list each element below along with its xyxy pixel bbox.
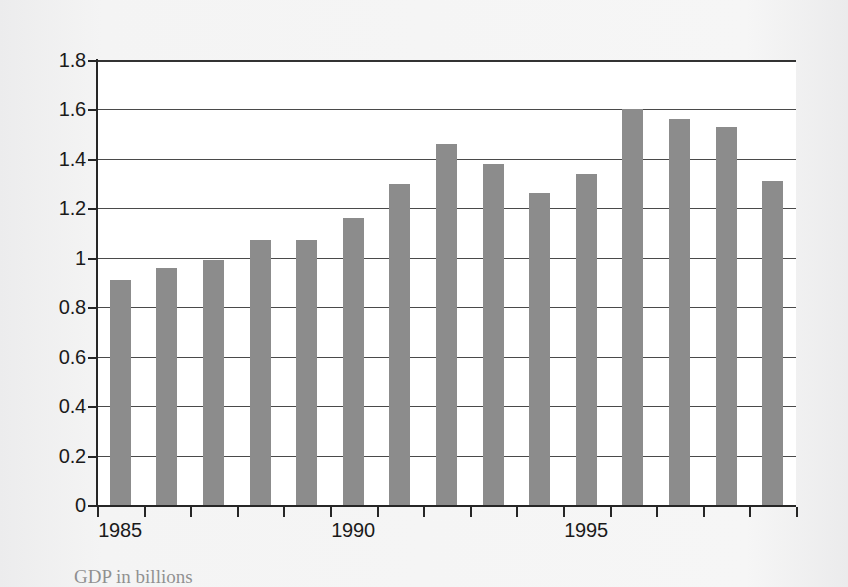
- y-tick-mark-1.6: [88, 109, 97, 111]
- x-tick-mark-12: [656, 507, 658, 517]
- x-tick-mark-11: [610, 507, 612, 517]
- bar-1999: [762, 181, 783, 505]
- y-tick-mark-1: [88, 258, 97, 260]
- bar-1997: [669, 119, 690, 505]
- y-tick-label-0.2: 0.2: [16, 446, 86, 466]
- bar-1994: [529, 193, 550, 505]
- x-tick-label-1995: 1995: [564, 520, 608, 540]
- bar-1988: [250, 240, 271, 505]
- x-tick-mark-5: [330, 507, 332, 517]
- bar-series: [97, 60, 796, 505]
- y-tick-label-1.4: 1.4: [16, 149, 86, 169]
- y-axis-line: [96, 59, 98, 507]
- x-tick-label-1985: 1985: [98, 520, 142, 540]
- x-tick-mark-7: [423, 507, 425, 517]
- y-tick-mark-0.8: [88, 307, 97, 309]
- x-axis-line: [96, 505, 796, 507]
- y-tick-mark-0.4: [88, 406, 97, 408]
- y-tick-label-0: 0: [16, 495, 86, 515]
- bar-1985: [110, 280, 131, 505]
- x-tick-mark-6: [377, 507, 379, 517]
- bar-1989: [296, 240, 317, 505]
- x-tick-mark-13: [703, 507, 705, 517]
- scanned-page: 00.20.40.60.811.21.41.61.8 198519901995 …: [0, 0, 848, 587]
- y-tick-label-1.8: 1.8: [16, 50, 86, 70]
- y-tick-label-1: 1: [16, 248, 86, 268]
- bar-1993: [483, 164, 504, 505]
- y-tick-label-1.6: 1.6: [16, 99, 86, 119]
- figure-caption: GDP in billions: [74, 566, 834, 587]
- y-tick-mark-1.8: [88, 60, 97, 62]
- y-tick-label-0.8: 0.8: [16, 297, 86, 317]
- bar-1998: [716, 127, 737, 505]
- bar-1987: [203, 260, 224, 505]
- x-tick-mark-9: [516, 507, 518, 517]
- y-tick-label-0.6: 0.6: [16, 347, 86, 367]
- x-tick-mark-10: [563, 507, 565, 517]
- bar-1996: [622, 109, 643, 505]
- x-tick-mark-4: [283, 507, 285, 517]
- bar-1995: [576, 174, 597, 505]
- y-tick-mark-0: [88, 505, 97, 507]
- x-tick-mark-2: [190, 507, 192, 517]
- bar-1991: [389, 184, 410, 505]
- bar-1992: [436, 144, 457, 505]
- y-tick-mark-1.4: [88, 159, 97, 161]
- y-tick-label-1.2: 1.2: [16, 198, 86, 218]
- x-tick-label-1990: 1990: [331, 520, 375, 540]
- y-axis-ticks: 00.20.40.60.811.21.41.61.8: [0, 0, 86, 587]
- x-tick-mark-1: [144, 507, 146, 517]
- plot-area: [97, 60, 796, 505]
- y-tick-label-0.4: 0.4: [16, 396, 86, 416]
- x-tick-mark-0: [97, 507, 99, 517]
- x-tick-mark-3: [237, 507, 239, 517]
- x-tick-mark-8: [470, 507, 472, 517]
- bar-1986: [156, 268, 177, 505]
- x-tick-mark-14: [749, 507, 751, 517]
- bar-chart-figure: 00.20.40.60.811.21.41.61.8 198519901995 …: [0, 0, 848, 587]
- x-tick-mark-15: [796, 507, 798, 517]
- y-tick-mark-0.6: [88, 357, 97, 359]
- y-tick-mark-1.2: [88, 208, 97, 210]
- bar-1990: [343, 218, 364, 505]
- y-tick-mark-0.2: [88, 456, 97, 458]
